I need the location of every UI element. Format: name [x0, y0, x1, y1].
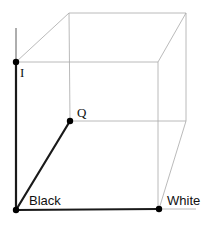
cube-canvas: I Q Black White	[0, 0, 207, 231]
i-label: I	[20, 65, 24, 80]
black-label: Black	[29, 193, 61, 208]
back-left-edge	[69, 13, 70, 121]
yiq-cube-diagram: I Q Black White	[0, 0, 207, 231]
cube-edges	[16, 13, 196, 209]
axes	[16, 62, 159, 210]
q-point	[67, 118, 73, 124]
white-label: White	[167, 193, 200, 208]
q-label: Q	[77, 105, 87, 120]
white-point	[156, 206, 162, 212]
luma-axis	[16, 209, 159, 210]
top-right-diagonal-edge	[158, 13, 186, 62]
top-left-diagonal-edge	[16, 13, 69, 62]
i-point	[13, 59, 19, 65]
black-point	[13, 207, 19, 213]
